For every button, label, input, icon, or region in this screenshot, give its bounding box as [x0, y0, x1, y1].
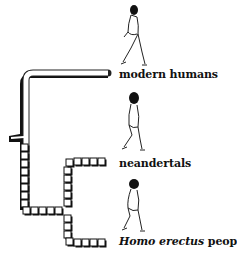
label-homo-erectus-rest: people: [204, 235, 237, 248]
archaic-branch: [21, 144, 107, 248]
label-homo-erectus: Homo erectus people: [119, 235, 237, 248]
walking-neandertal-icon: [120, 91, 146, 153]
label-homo-erectus-italic: Homo erectus: [119, 235, 204, 248]
phylogeny-diagram: modern humans neandertals Homo erectus p…: [0, 0, 237, 262]
walking-modern-human-icon: [118, 4, 148, 68]
label-modern-humans: modern humans: [119, 68, 218, 81]
label-neandertals: neandertals: [119, 157, 191, 170]
walking-homo-erectus-icon: [120, 178, 146, 234]
